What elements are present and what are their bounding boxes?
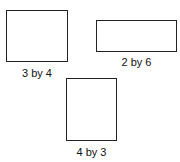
rect-2-by-6 bbox=[96, 20, 177, 52]
label-2-by-6: 2 by 6 bbox=[96, 56, 177, 68]
label-4-by-3: 4 by 3 bbox=[66, 146, 117, 158]
rect-4-by-3 bbox=[66, 78, 117, 141]
rect-3-by-4 bbox=[6, 10, 68, 62]
label-3-by-4: 3 by 4 bbox=[6, 67, 68, 79]
